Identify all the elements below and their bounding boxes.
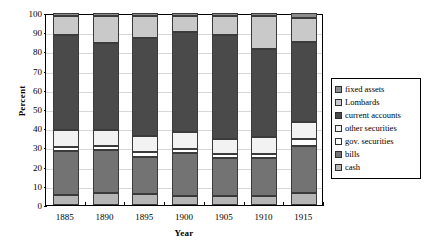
bar-segment[interactable]: [212, 154, 238, 158]
legend-item-label: cash: [345, 163, 360, 172]
bar-segment[interactable]: [93, 16, 119, 43]
y-axis-tick-labels: 0102030405060708090100: [14, 14, 42, 206]
bar-segment[interactable]: [132, 136, 158, 152]
bar-segment[interactable]: [93, 193, 119, 205]
bar-segment[interactable]: [212, 13, 238, 16]
bar-segment[interactable]: [132, 152, 158, 157]
legend-item-label: gov. securities: [345, 137, 394, 146]
bar-segment[interactable]: [291, 146, 317, 192]
bar-segment[interactable]: [53, 147, 79, 151]
x-tick-mark: [45, 202, 46, 206]
bar-segment[interactable]: [172, 153, 198, 196]
bar-segment[interactable]: [212, 196, 238, 205]
bar-segment[interactable]: [172, 132, 198, 149]
bar-segment[interactable]: [291, 18, 317, 42]
bar-column[interactable]: [93, 15, 119, 205]
bar-segment[interactable]: [251, 137, 277, 154]
bar-segment[interactable]: [132, 157, 158, 194]
x-tick-mark: [283, 202, 284, 206]
bar-segment[interactable]: [251, 196, 277, 205]
bar-segment[interactable]: [212, 16, 238, 35]
x-tick-label: 1905: [204, 212, 244, 222]
bar-segment[interactable]: [212, 158, 238, 196]
bar-segment[interactable]: [93, 13, 119, 16]
bar-segment[interactable]: [53, 130, 79, 147]
bar-segment[interactable]: [251, 158, 277, 196]
y-tick-label: 70: [14, 67, 42, 76]
x-axis-title: Year: [45, 228, 323, 238]
y-tick-mark: [44, 206, 47, 207]
y-tick-label: 90: [14, 29, 42, 38]
x-tick-label: 1895: [124, 212, 164, 222]
bar-segment[interactable]: [251, 154, 277, 158]
bar-segment[interactable]: [132, 194, 158, 205]
legend-item[interactable]: gov. securities: [335, 135, 417, 148]
chart-legend: fixed assetsLombardscurrent accountsothe…: [331, 78, 421, 179]
bar-segment[interactable]: [93, 146, 119, 150]
x-tick-label: 1915: [283, 212, 323, 222]
legend-item[interactable]: other securities: [335, 122, 417, 135]
bar-segment[interactable]: [291, 139, 317, 147]
bar-column[interactable]: [212, 15, 238, 205]
y-tick-label: 60: [14, 86, 42, 95]
legend-swatch-icon: [335, 138, 342, 145]
legend-swatch-icon: [335, 112, 342, 119]
x-tick-mark: [244, 202, 245, 206]
legend-item-label: fixed assets: [345, 85, 384, 94]
bar-segment[interactable]: [291, 42, 317, 123]
legend-item-label: Lombards: [345, 98, 379, 107]
legend-item[interactable]: fixed assets: [335, 83, 417, 96]
legend-swatch-icon: [335, 99, 342, 106]
plot-area: [45, 14, 323, 206]
bar-column[interactable]: [172, 15, 198, 205]
bar-segment[interactable]: [93, 150, 119, 193]
y-tick-label: 80: [14, 48, 42, 57]
x-tick-label: 1900: [164, 212, 204, 222]
bar-segment[interactable]: [93, 43, 119, 130]
bar-segment[interactable]: [172, 196, 198, 205]
y-tick-label: 100: [14, 10, 42, 19]
bar-segment[interactable]: [93, 130, 119, 146]
y-tick-label: 20: [14, 163, 42, 172]
x-tick-mark: [124, 202, 125, 206]
bar-segment[interactable]: [53, 195, 79, 205]
bar-segment[interactable]: [251, 16, 277, 49]
bar-column[interactable]: [291, 15, 317, 205]
bar-segment[interactable]: [291, 193, 317, 205]
bar-segment[interactable]: [212, 139, 238, 154]
legend-swatch-icon: [335, 125, 342, 132]
x-tick-mark: [204, 202, 205, 206]
y-tick-label: 50: [14, 106, 42, 115]
x-tick-label: 1885: [45, 212, 85, 222]
bar-segment[interactable]: [251, 13, 277, 16]
bar-column[interactable]: [53, 15, 79, 205]
bar-segment[interactable]: [251, 49, 277, 137]
legend-item[interactable]: bills: [335, 148, 417, 161]
bar-segment[interactable]: [53, 13, 79, 16]
bar-column[interactable]: [132, 15, 158, 205]
y-tick-label: 40: [14, 125, 42, 134]
legend-item[interactable]: cash: [335, 161, 417, 174]
legend-item[interactable]: Lombards: [335, 96, 417, 109]
bar-segment[interactable]: [53, 16, 79, 35]
bar-segment[interactable]: [172, 32, 198, 132]
bar-segment[interactable]: [132, 13, 158, 16]
bar-segment[interactable]: [132, 16, 158, 38]
bar-segment[interactable]: [53, 151, 79, 195]
chart-figure: Percent 0102030405060708090100 188518901…: [0, 0, 424, 250]
bar-segment[interactable]: [291, 122, 317, 138]
bar-column[interactable]: [251, 15, 277, 205]
bar-segment[interactable]: [291, 13, 317, 18]
x-tick-mark: [323, 202, 324, 206]
bar-segment[interactable]: [172, 13, 198, 16]
x-tick-mark: [164, 202, 165, 206]
legend-swatch-icon: [335, 86, 342, 93]
bar-series-group: [46, 15, 322, 205]
bar-segment[interactable]: [172, 149, 198, 153]
bar-segment[interactable]: [53, 35, 79, 130]
bar-segment[interactable]: [132, 38, 158, 136]
bar-segment[interactable]: [212, 35, 238, 139]
legend-item[interactable]: current accounts: [335, 109, 417, 122]
bar-segment[interactable]: [172, 16, 198, 32]
y-tick-label: 30: [14, 144, 42, 153]
